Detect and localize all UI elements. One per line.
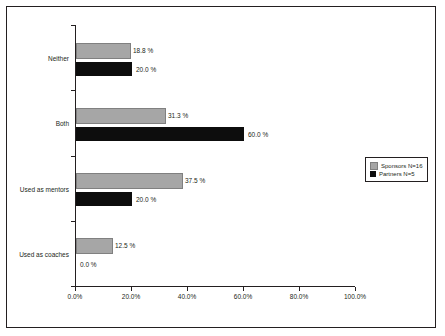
x-axis-line [75,286,355,287]
bar-partners-used-as-mentors [76,192,132,206]
bar-value-partners-used-as-coaches: 0.0 % [76,261,97,268]
plot-area: 0.0% 20.0% 40.0% 60.0% 80.0% 100.0% Neit… [75,25,355,287]
bar-value-sponsors-both: 31.3 % [164,112,188,119]
bar-value-sponsors-neither: 18.8 % [129,47,153,54]
y-tick-mark [71,286,75,287]
x-tick-mark [131,287,132,291]
bar-value-sponsors-used-as-coaches: 12.5 % [111,242,135,249]
x-tick-mark [187,287,188,291]
x-tick-label: 0.0% [68,293,83,300]
x-tick-mark [243,287,244,291]
bar-partners-neither [76,62,132,76]
category-label-used-as-coaches: Used as coaches [19,251,75,258]
x-tick-mark [299,287,300,291]
legend-swatch-icon [370,162,378,170]
chart-legend: Sponsors N=16 Partners N=5 [365,157,428,182]
y-tick-mark [71,156,75,157]
category-label-neither: Neither [48,55,75,62]
bar-sponsors-used-as-coaches [76,238,113,254]
x-tick-label: 60.0% [234,293,252,300]
y-tick-mark [71,25,75,26]
bar-sponsors-neither [76,43,131,59]
category-label-both: Both [56,120,75,127]
bar-value-sponsors-used-as-mentors: 37.5 % [181,177,205,184]
x-tick-mark [355,287,356,291]
bar-value-partners-both: 60.0 % [244,131,268,138]
x-tick-label: 100.0% [344,293,366,300]
bar-value-partners-neither: 20.0 % [132,66,156,73]
category-label-used-as-mentors: Used as mentors [20,186,75,193]
x-tick-mark [75,287,76,291]
legend-label-partners: Partners N=5 [379,171,415,177]
legend-label-sponsors: Sponsors N=16 [381,163,423,169]
legend-item-sponsors: Sponsors N=16 [370,162,423,170]
x-tick-label: 80.0% [290,293,308,300]
legend-swatch-icon [370,171,376,177]
bar-sponsors-both [76,108,166,124]
x-tick-label: 20.0% [122,293,140,300]
legend-item-partners: Partners N=5 [370,171,423,177]
bar-partners-both [76,127,244,141]
chart-frame: 0.0% 20.0% 40.0% 60.0% 80.0% 100.0% Neit… [6,6,436,328]
bar-sponsors-used-as-mentors [76,173,183,189]
x-tick-label: 40.0% [178,293,196,300]
y-tick-mark [71,221,75,222]
y-tick-mark [71,90,75,91]
bar-value-partners-used-as-mentors: 20.0 % [132,196,156,203]
